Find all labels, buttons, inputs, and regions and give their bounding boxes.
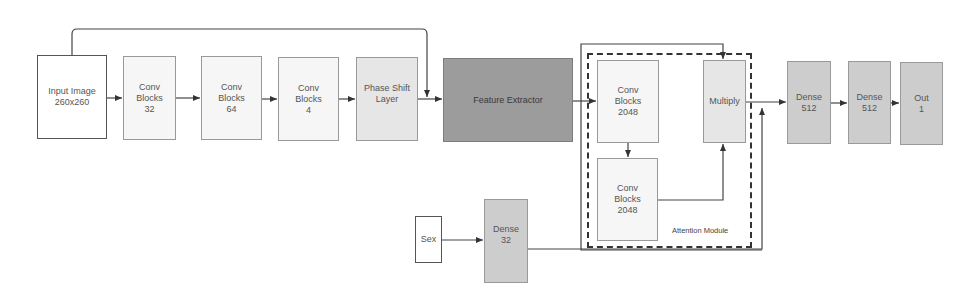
conv-blocks-4-label: Conv Blocks 4: [295, 83, 322, 116]
conv-blocks-32-node: Conv Blocks 32: [123, 56, 176, 140]
conv-blocks-64-node: Conv Blocks 64: [201, 56, 262, 140]
conv-blocks-4-node: Conv Blocks 4: [278, 57, 339, 141]
sex-input-label: Sex: [421, 234, 437, 245]
conv-blocks-64-label: Conv Blocks 64: [218, 82, 245, 115]
multiply-label: Multiply: [709, 96, 740, 107]
conv-blocks-2048-bottom-node: Conv Blocks 2048: [597, 158, 658, 241]
dense-512-second-node: Dense 512: [848, 61, 891, 144]
conv-blocks-32-label: Conv Blocks 32: [136, 82, 163, 115]
dense-32-label: Dense 32: [493, 224, 519, 246]
phase-shift-layer-label: Phase Shift Layer: [364, 83, 410, 105]
output-label: Out 1: [914, 93, 929, 115]
dense-512-first-node: Dense 512: [787, 61, 831, 144]
conv-blocks-2048-bottom-label: Conv Blocks 2048: [614, 183, 641, 216]
feature-extractor-label: Feature Extractor: [473, 95, 543, 106]
output-node: Out 1: [900, 62, 943, 145]
dense-512-first-label: Dense 512: [796, 92, 822, 114]
dense-32-node: Dense 32: [484, 199, 528, 283]
architecture-diagram: Attention Module Input Image 260x260 Con…: [0, 0, 979, 296]
multiply-node: Multiply: [703, 60, 746, 143]
feature-extractor-node: Feature Extractor: [443, 58, 573, 142]
attention-module-label: Attention Module: [672, 226, 728, 235]
input-image-node: Input Image 260x260: [37, 55, 107, 139]
sex-input-node: Sex: [415, 216, 442, 263]
input-image-label: Input Image 260x260: [48, 86, 96, 108]
conv-blocks-2048-top-label: Conv Blocks 2048: [615, 85, 642, 118]
phase-shift-layer-node: Phase Shift Layer: [356, 57, 418, 141]
conv-blocks-2048-top-node: Conv Blocks 2048: [597, 60, 659, 143]
dense-512-second-label: Dense 512: [856, 92, 882, 114]
